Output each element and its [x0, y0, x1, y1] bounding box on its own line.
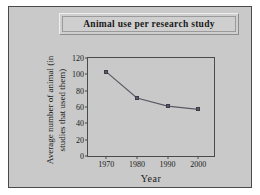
x-axis-tick-label: 1990	[160, 160, 176, 169]
data-point-marker	[135, 96, 139, 100]
y-axis-tick-mark	[85, 123, 88, 124]
x-axis-tick-label: 2000	[190, 160, 206, 169]
plot-frame: 0204060801001201970198019902000	[87, 57, 215, 157]
y-axis-tick-label: 60	[76, 103, 84, 112]
y-axis-tick-mark	[85, 107, 88, 108]
y-axis-tick-mark	[85, 74, 88, 75]
y-axis-tick-mark	[85, 90, 88, 91]
chart-title: Animal use per research study	[83, 19, 215, 29]
x-axis-title: Year	[87, 173, 215, 184]
data-point-marker	[166, 104, 170, 108]
y-axis-tick-mark	[85, 156, 88, 157]
chart-title-plaque-inner: Animal use per research study	[62, 16, 236, 32]
chart-title-plaque: Animal use per research study	[59, 13, 239, 35]
x-axis-tick-mark	[136, 156, 137, 159]
x-axis-tick-label: 1970	[98, 160, 114, 169]
y-axis-tick-label: 0	[80, 152, 84, 161]
x-axis-tick-mark	[198, 156, 199, 159]
y-axis-title-container: Average number of animal (in studies tha…	[31, 47, 81, 172]
x-axis-tick-mark	[106, 156, 107, 159]
data-point-marker	[196, 107, 200, 111]
y-axis-tick-label: 80	[76, 86, 84, 95]
data-point-marker	[104, 70, 108, 74]
y-axis-title: Average number of animal (in studies tha…	[44, 48, 68, 172]
y-axis-tick-label: 120	[72, 54, 84, 63]
x-axis-tick-mark	[167, 156, 168, 159]
chart-figure: Animal use per research study Average nu…	[8, 6, 252, 188]
y-axis-tick-label: 100	[72, 70, 84, 79]
y-axis-tick-mark	[85, 58, 88, 59]
y-axis-tick-label: 20	[76, 135, 84, 144]
y-axis-tick-mark	[85, 139, 88, 140]
y-axis-tick-label: 40	[76, 119, 84, 128]
x-axis-tick-label: 1980	[129, 160, 145, 169]
series-line	[106, 72, 198, 110]
plot-area: 0204060801001201970198019902000	[88, 58, 214, 156]
